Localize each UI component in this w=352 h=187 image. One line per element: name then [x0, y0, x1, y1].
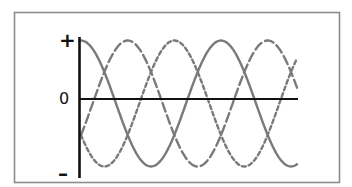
waveform-plot [0, 0, 352, 187]
zero-label: 0 [59, 91, 69, 107]
positive-label: + [59, 30, 76, 50]
three-phase-diagram: + 0 – [0, 0, 352, 187]
negative-label: – [58, 163, 68, 183]
